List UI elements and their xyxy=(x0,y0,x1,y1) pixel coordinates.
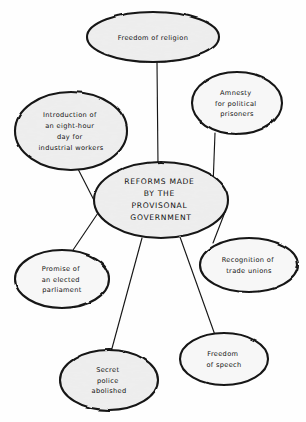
connector-center-to-freedom-of-religion xyxy=(157,62,158,166)
node-recognition-of-trade-unions[interactable]: Recognition of trade unions xyxy=(200,238,298,292)
node-amnesty-for-political-prisoners-label: Amnesty for political prisoners xyxy=(215,89,259,118)
node-eight-hour-day[interactable]: Introduction of an eight-hour day for in… xyxy=(15,92,127,170)
node-promise-of-elected-parliament-label: Promise of an elected parliament xyxy=(42,265,83,294)
node-freedom-of-religion[interactable]: Freedom of religion xyxy=(87,12,219,62)
node-freedom-of-speech-ellipse xyxy=(180,333,268,385)
node-recognition-of-trade-unions-ellipse xyxy=(200,238,298,292)
diagram-canvas: Freedom of religion Amnesty for politica… xyxy=(0,0,306,422)
node-amnesty-for-political-prisoners[interactable]: Amnesty for political prisoners xyxy=(192,72,282,134)
node-center-ellipse xyxy=(94,162,228,238)
node-freedom-of-speech[interactable]: Freedom of speech xyxy=(180,333,268,385)
node-center-reforms[interactable]: REFORMS MADE BY THE PROVISONAL GOVERNMEN… xyxy=(94,162,228,238)
node-secret-police-abolished[interactable]: Secret police abolished xyxy=(60,350,158,410)
node-promise-of-elected-parliament[interactable]: Promise of an elected parliament xyxy=(15,250,109,308)
node-freedom-of-religion-label: Freedom of religion xyxy=(118,34,188,42)
connector-center-to-promise-of-elected-parliament xyxy=(71,213,98,253)
node-eight-hour-day-ellipse xyxy=(15,92,127,170)
connector-center-to-secret-police-abolished xyxy=(111,238,142,352)
mind-map-diagram: Freedom of religion Amnesty for politica… xyxy=(0,0,306,422)
